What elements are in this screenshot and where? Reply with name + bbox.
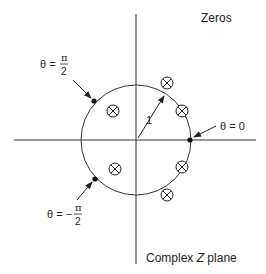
svg-text:θ =: θ =: [40, 58, 56, 70]
zero-marker-icon: [107, 105, 119, 117]
svg-text:2: 2: [61, 66, 67, 77]
point-theta-0: [187, 137, 192, 142]
svg-text:2: 2: [75, 216, 81, 227]
complex-z-plane-label: Complex Z plane: [146, 251, 237, 265]
zero-marker-icon: [176, 105, 188, 117]
point-theta-neg-pi-over-2: [92, 176, 97, 181]
svg-text:π: π: [61, 52, 68, 63]
zero-marker-icon: [176, 161, 188, 173]
theta-zero-label: θ = 0: [220, 120, 245, 132]
theta-pi-over-2-label: θ = π 2: [40, 52, 68, 77]
zero-marker-icon: [161, 189, 173, 201]
theta-neg-pi-over-2-arrow: [77, 182, 92, 200]
svg-text:θ = −: θ = −: [47, 208, 72, 220]
theta-zero-arrow: [194, 126, 216, 137]
zeros-legend-label: Zeros: [201, 11, 232, 25]
complex-z-plane-diagram: 1: [0, 0, 266, 274]
point-theta-pi-over-2: [91, 98, 96, 103]
diagram-canvas: 1: [0, 0, 266, 274]
zero-marker-icon: [109, 163, 121, 175]
radius-label: 1: [146, 114, 152, 126]
zero-marker-icon: [161, 77, 173, 89]
svg-text:π: π: [75, 202, 82, 213]
theta-pi-over-2-arrow: [73, 80, 91, 98]
theta-neg-pi-over-2-label: θ = − π 2: [47, 202, 82, 227]
